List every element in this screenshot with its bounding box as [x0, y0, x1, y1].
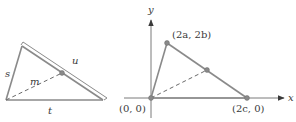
label-right: (2c, 0) [232, 103, 265, 114]
label-t: t [48, 105, 53, 116]
ruler-end-cap-bottom [104, 98, 107, 100]
apex-point [165, 41, 170, 46]
left-triangle-figure: s m u t [5, 42, 107, 116]
label-s: s [5, 68, 10, 79]
midpoint-dot [205, 68, 210, 73]
right-coordinate-figure: x y (0, 0) (2a, 2b) (2c, 0) [119, 4, 294, 118]
side-origin-apex [151, 43, 167, 98]
x-axis-label: x [288, 92, 294, 103]
label-apex: (2a, 2b) [172, 29, 211, 40]
label-origin: (0, 0) [119, 103, 146, 114]
side-u-parallel-line [23, 42, 107, 98]
y-axis-label: y [147, 4, 154, 15]
diagram-canvas: s m u t x y (0, 0) (2a, 2b) (2c, 0) [0, 0, 296, 122]
label-m: m [30, 76, 39, 87]
right-point [245, 96, 250, 101]
origin-point [149, 96, 154, 101]
median [151, 70, 207, 98]
label-u: u [72, 55, 78, 66]
ruler-end-cap-top [21, 42, 23, 45]
midpoint-dot [60, 71, 65, 76]
